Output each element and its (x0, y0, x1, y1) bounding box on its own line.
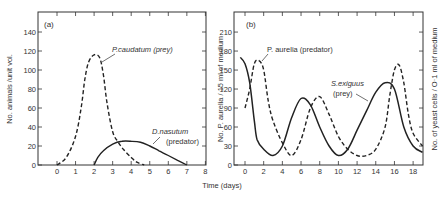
panel-a-label: (a) (44, 20, 54, 29)
panel-b-top-ticks (245, 12, 413, 16)
panel-a-ylabel: No. animals /unit vol. (5, 54, 14, 124)
prey-curve-p-caudatum (57, 54, 144, 165)
svg-text:80: 80 (28, 85, 36, 94)
annotation-p-caudatum: P.caudatum (prey) (112, 45, 173, 54)
figure: 020406080100120140 012345678 (a) No. ani… (0, 0, 446, 199)
annotation-d-nasutum: D.nasutum (152, 127, 188, 136)
predator-curve-p-aurelia (240, 57, 422, 155)
svg-text:30: 30 (224, 142, 232, 151)
annotation-p-aurelia: P. aurelia (predator) (267, 45, 333, 54)
annotation-prey-b: (prey) (333, 89, 353, 98)
svg-text:14: 14 (372, 167, 380, 176)
panel-b-label: (b) (246, 20, 256, 29)
svg-text:10: 10 (334, 167, 342, 176)
panel-a-top-ticks (57, 12, 205, 16)
svg-text:2: 2 (262, 167, 266, 176)
x-axis-title: Time (days) (202, 181, 242, 190)
svg-text:100: 100 (23, 66, 36, 75)
svg-text:1: 1 (73, 167, 77, 176)
svg-text:60: 60 (28, 104, 36, 113)
svg-text:5: 5 (148, 167, 152, 176)
svg-text:210: 210 (219, 28, 232, 37)
svg-text:0: 0 (228, 161, 232, 170)
svg-text:12: 12 (353, 167, 361, 176)
panel-b-right-axis (419, 32, 423, 146)
svg-text:20: 20 (28, 142, 36, 151)
annotation-arrow-b-pred (262, 54, 268, 61)
annotation-predator-a: (predator) (166, 137, 199, 146)
svg-text:3: 3 (111, 167, 115, 176)
svg-text:120: 120 (23, 47, 36, 56)
svg-text:8: 8 (318, 167, 322, 176)
panel-b-ylabel: No. P. aurelia / 15 ml of medium (216, 36, 225, 142)
svg-text:0: 0 (55, 167, 59, 176)
annotation-s-exiguus: S.exiguus (331, 79, 364, 88)
svg-text:140: 140 (23, 28, 36, 37)
panel-a: 020406080100120140 012345678 (a) No. ani… (5, 12, 207, 176)
svg-text:0: 0 (32, 161, 36, 170)
annotation-arrow-a-pred (153, 137, 160, 144)
annotation-arrow-b-prey (356, 94, 368, 101)
svg-text:16: 16 (390, 167, 398, 176)
svg-text:2: 2 (92, 167, 96, 176)
svg-text:6: 6 (299, 167, 303, 176)
panel-b-ylabel-right: No. of yeast cells / O·1 ml of medium (430, 28, 439, 151)
svg-text:8: 8 (203, 167, 207, 176)
panel-b: 0306090120150180210 024681012141618 (b) … (216, 12, 439, 176)
svg-text:7: 7 (185, 167, 189, 176)
svg-text:4: 4 (280, 167, 284, 176)
annotation-arrow-a-prey (102, 54, 115, 62)
svg-text:4: 4 (129, 167, 133, 176)
panel-b-x-axis: 024681012141618 (243, 161, 417, 176)
svg-text:18: 18 (409, 167, 417, 176)
svg-text:0: 0 (243, 167, 247, 176)
prey-curve-s-exiguus (245, 60, 423, 156)
svg-text:6: 6 (166, 167, 170, 176)
svg-text:40: 40 (28, 123, 36, 132)
